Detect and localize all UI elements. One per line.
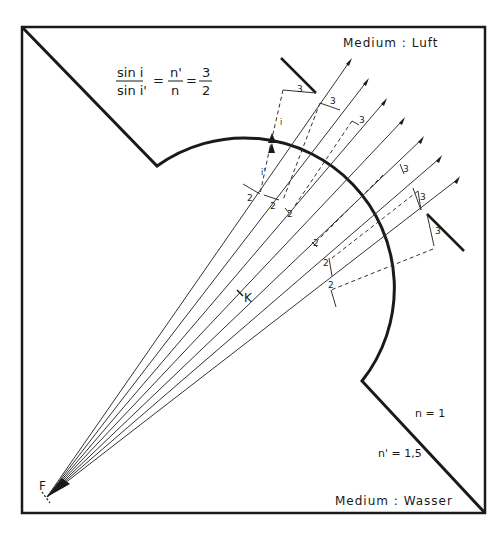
- svg-text:2: 2: [323, 258, 329, 268]
- formula-rhs-numerator: 3: [202, 65, 210, 80]
- tangent-right: [427, 214, 464, 251]
- focus-label: F: [39, 479, 46, 493]
- svg-text:2: 2: [328, 280, 334, 290]
- svg-text:3: 3: [403, 164, 409, 174]
- svg-text:3: 3: [420, 192, 426, 202]
- incident-angle-marker: [268, 133, 276, 143]
- medium-air-label: Medium : Luft: [343, 36, 438, 50]
- medium-water-label: Medium : Wasser: [335, 494, 453, 508]
- incident-angle-label: i: [280, 118, 282, 127]
- svg-text:3: 3: [330, 96, 336, 106]
- svg-text:2: 2: [313, 238, 319, 248]
- refracted-angle-marker: [268, 143, 275, 153]
- refractive-index-water: n' = 1,5: [378, 447, 422, 460]
- construction-dashed: [260, 90, 433, 290]
- ray-4: [47, 120, 403, 497]
- center-label: K: [244, 291, 253, 305]
- formula-mid-numerator: n': [170, 65, 182, 80]
- interface-boundary: [22, 27, 485, 513]
- ray-3: [47, 101, 385, 497]
- svg-text:3: 3: [435, 226, 441, 236]
- formula-mid-denominator: n: [171, 83, 179, 98]
- formula-lhs-denominator: sin i': [117, 83, 147, 98]
- ray-bundle: [47, 61, 458, 497]
- svg-text:2: 2: [270, 201, 276, 211]
- snell-formula: sin i sin i' = n' n = 3 2: [116, 65, 212, 98]
- formula-rhs-denominator: 2: [202, 83, 210, 98]
- svg-text:2: 2: [287, 209, 293, 219]
- svg-text:2: 2: [247, 193, 253, 203]
- refracted-angle-label: i': [261, 168, 265, 177]
- refraction-diagram: sin i sin i' = n' n = 3 2 Medium : Luft …: [0, 0, 500, 533]
- construction-solid: [243, 90, 434, 307]
- formula-lhs-numerator: sin i: [117, 65, 143, 80]
- formula-equals-1: =: [153, 73, 164, 88]
- svg-text:3: 3: [297, 84, 303, 94]
- refractive-index-air: n = 1: [415, 407, 445, 420]
- ray-1: [47, 61, 350, 497]
- svg-text:3: 3: [359, 115, 365, 125]
- formula-equals-2: =: [186, 73, 197, 88]
